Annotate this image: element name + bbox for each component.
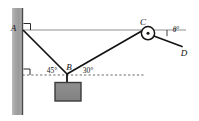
diagram-canvas: A B C D 45° 30° θ° — [0, 0, 199, 121]
cable-segment-ab — [24, 31, 68, 75]
label-point-a: A — [10, 23, 17, 33]
cable-segment-bc — [67, 30, 144, 74]
right-angle-marker-a — [24, 24, 31, 31]
label-angle-theta: θ° — [173, 25, 180, 34]
pulley-axle-dot — [147, 32, 150, 35]
label-angle-45: 45° — [47, 66, 58, 75]
pulley-at-c — [141, 27, 154, 40]
label-angle-30: 30° — [83, 66, 94, 75]
label-point-c: C — [140, 17, 147, 27]
statics-diagram-figure: A B C D 45° 30° θ° — [0, 0, 199, 121]
label-point-b: B — [66, 62, 72, 72]
label-point-d: D — [180, 48, 188, 58]
right-angle-marker-wall-dashed — [24, 69, 31, 75]
suspended-block — [55, 83, 81, 102]
cable-segment-cd — [153, 36, 183, 47]
